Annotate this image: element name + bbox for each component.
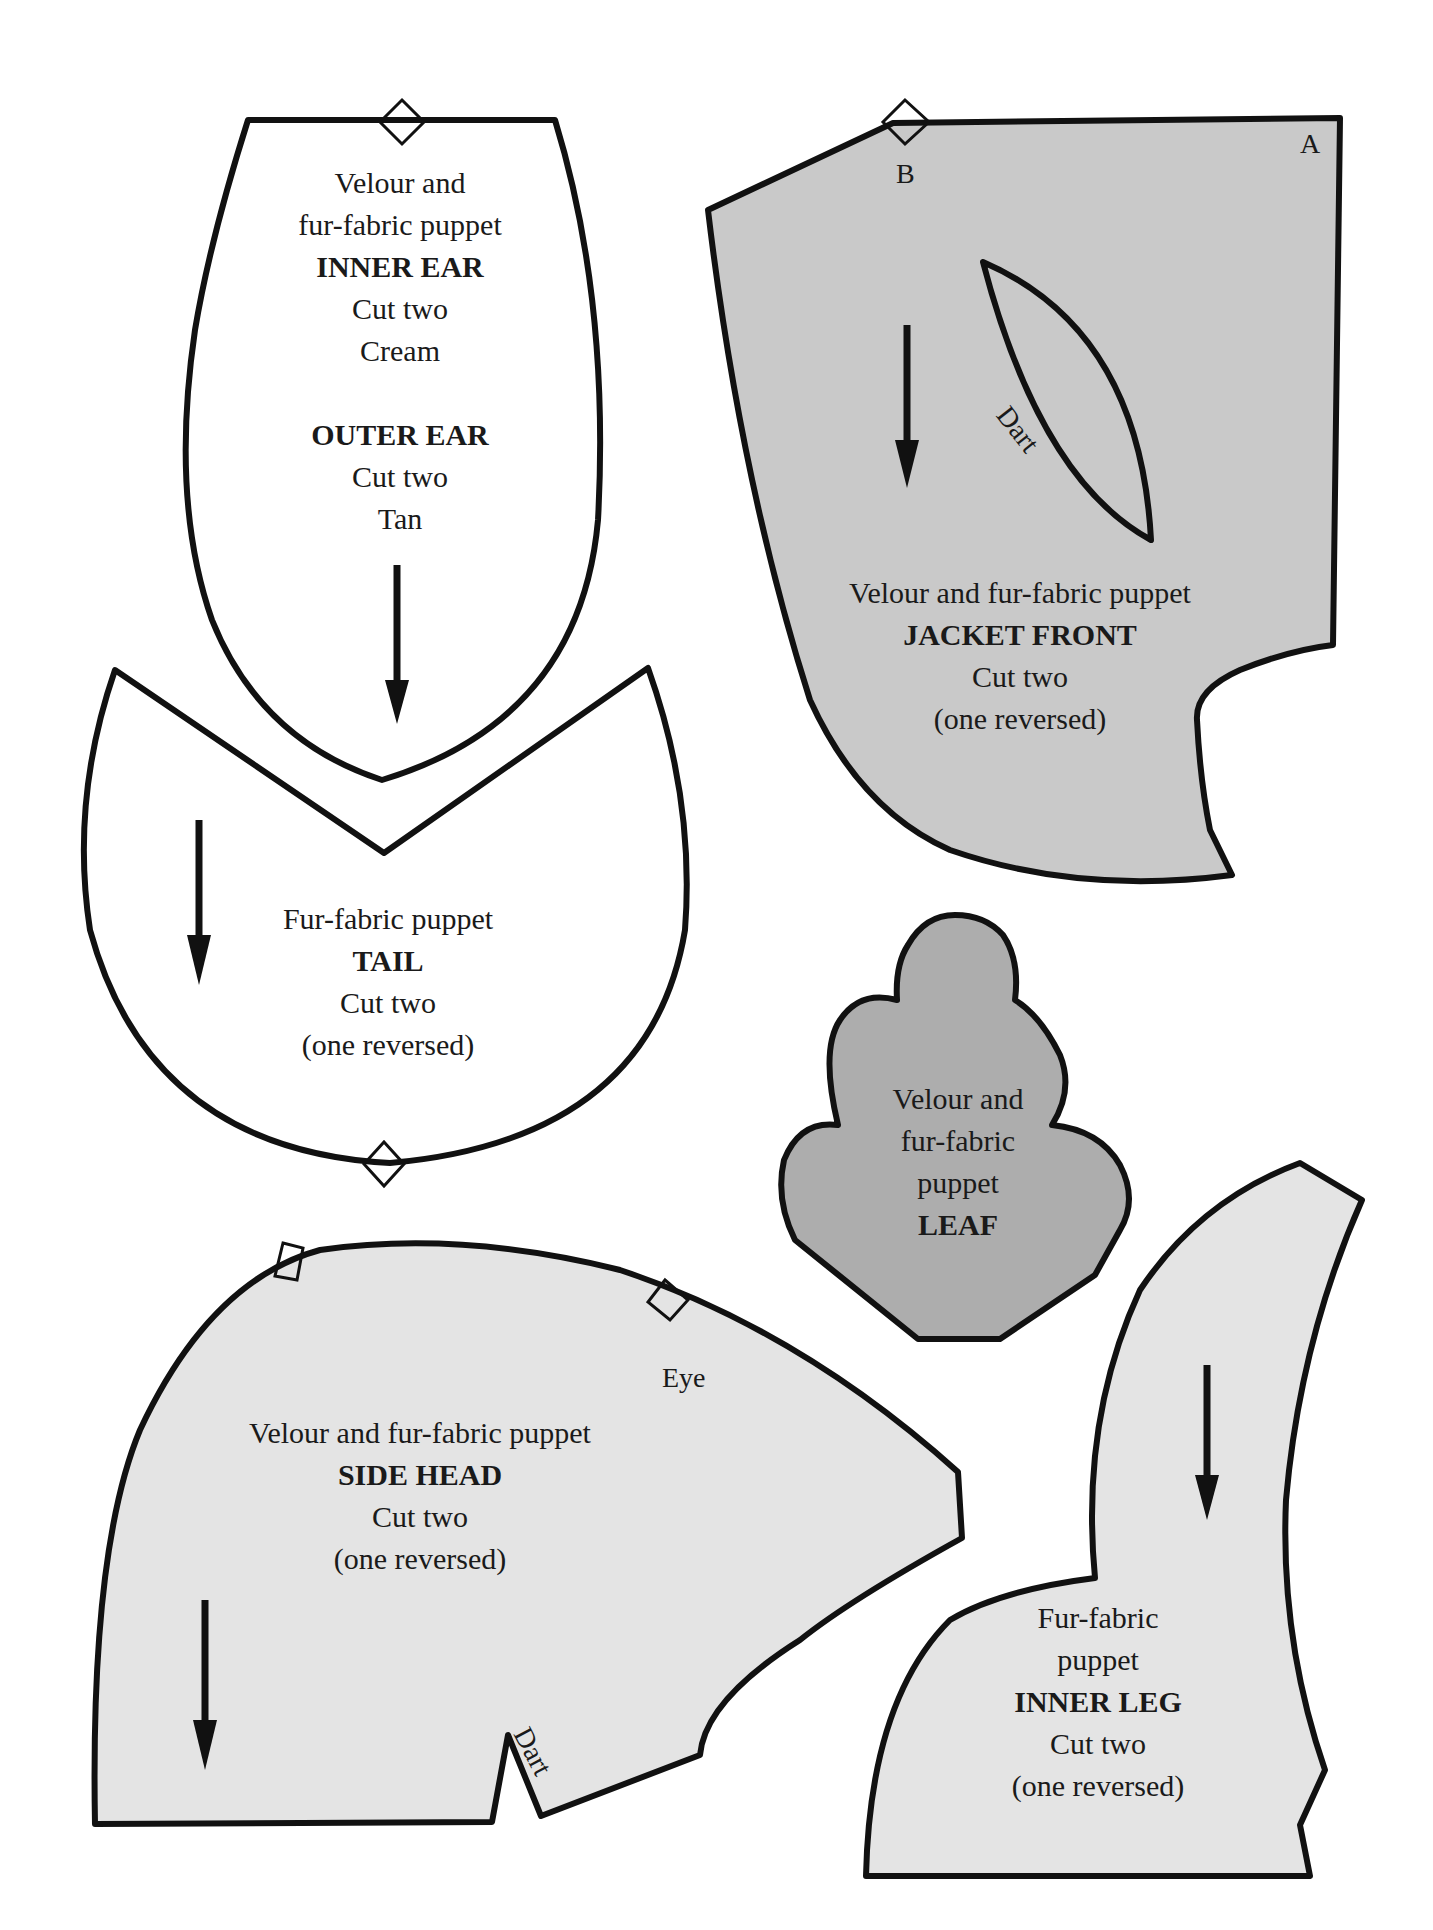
inner-ear-title: INNER EAR xyxy=(298,246,501,288)
side-head-line1: Velour and fur-fabric puppet xyxy=(249,1412,591,1454)
jacket-front-piece xyxy=(708,100,1340,881)
ear-label: Velour and fur-fabric puppet INNER EAR C… xyxy=(298,162,501,540)
side-head-label: Velour and fur-fabric puppet SIDE HEAD C… xyxy=(249,1412,591,1580)
tail-title: TAIL xyxy=(283,940,493,982)
tail-note: (one reversed) xyxy=(283,1024,493,1066)
jacket-front-label: Velour and fur-fabric puppet JACKET FRON… xyxy=(849,572,1191,740)
leaf-label: Velour and fur-fabric puppet LEAF xyxy=(893,1078,1024,1246)
jacket-note: (one reversed) xyxy=(849,698,1191,740)
tail-label: Fur-fabric puppet TAIL Cut two (one reve… xyxy=(283,898,493,1066)
tail-cut: Cut two xyxy=(283,982,493,1024)
pattern-sheet xyxy=(0,0,1433,1930)
jacket-cut: Cut two xyxy=(849,656,1191,698)
outer-ear-cut: Cut two xyxy=(298,456,501,498)
inner-leg-cut: Cut two xyxy=(1012,1723,1184,1765)
side-head-note: (one reversed) xyxy=(249,1538,591,1580)
jacket-marker-a: A xyxy=(1300,128,1320,160)
jacket-marker-b: B xyxy=(896,158,915,190)
side-head-cut: Cut two xyxy=(249,1496,591,1538)
side-head-title: SIDE HEAD xyxy=(249,1454,591,1496)
outer-ear-title: OUTER EAR xyxy=(298,414,501,456)
leaf-line2: fur-fabric xyxy=(893,1120,1024,1162)
inner-ear-color: Cream xyxy=(298,330,501,372)
ear-line2: fur-fabric puppet xyxy=(298,204,501,246)
inner-leg-note: (one reversed) xyxy=(1012,1765,1184,1807)
jacket-line1: Velour and fur-fabric puppet xyxy=(849,572,1191,614)
ear-line1: Velour and xyxy=(298,162,501,204)
inner-leg-line1: Fur-fabric xyxy=(1012,1597,1184,1639)
leaf-line3: puppet xyxy=(893,1162,1024,1204)
inner-ear-cut: Cut two xyxy=(298,288,501,330)
leaf-line1: Velour and xyxy=(893,1078,1024,1120)
tail-line1: Fur-fabric puppet xyxy=(283,898,493,940)
inner-leg-label: Fur-fabric puppet INNER LEG Cut two (one… xyxy=(1012,1597,1184,1807)
inner-leg-line2: puppet xyxy=(1012,1639,1184,1681)
inner-leg-title: INNER LEG xyxy=(1012,1681,1184,1723)
side-head-eye-label: Eye xyxy=(662,1362,706,1394)
leaf-title: LEAF xyxy=(893,1204,1024,1246)
outer-ear-color: Tan xyxy=(298,498,501,540)
jacket-title: JACKET FRONT xyxy=(849,614,1191,656)
